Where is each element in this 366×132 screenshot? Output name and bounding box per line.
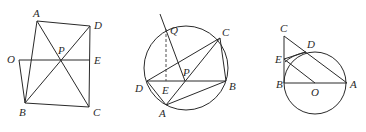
segment-BC (25, 103, 89, 107)
figure-2-circle-chords: Q C P D E B A (134, 14, 236, 119)
label-D: D (306, 38, 315, 50)
segment-CA (284, 36, 347, 83)
label-O: O (311, 86, 319, 98)
label-D: D (93, 19, 102, 31)
label-A: A (349, 78, 357, 90)
label-O: O (7, 53, 15, 65)
segment-AC (37, 21, 89, 107)
figure-1-quadrilateral: A D O P E B C (7, 7, 102, 118)
segment-AD (37, 21, 90, 26)
geometry-diagrams: A D O P E B C Q C P D E B A C D E (0, 0, 366, 132)
segment-EO (284, 59, 315, 83)
label-E: E (161, 84, 169, 96)
label-A: A (32, 7, 40, 19)
label-B: B (229, 80, 236, 92)
segment-CB (220, 38, 226, 81)
segment-AB (166, 81, 226, 105)
label-P: P (57, 44, 65, 56)
segment-OB (19, 60, 25, 103)
label-B: B (19, 106, 26, 118)
label-P: P (182, 66, 190, 78)
label-E: E (93, 54, 101, 66)
label-C: C (280, 22, 288, 34)
label-A: A (158, 107, 166, 119)
figure-3-tangent-circle: C D E B O A (274, 22, 357, 114)
label-Q: Q (170, 24, 178, 36)
segment-AC (166, 38, 220, 105)
segment-DC (89, 26, 90, 107)
label-B: B (276, 78, 283, 90)
label-C: C (222, 26, 230, 38)
label-D: D (134, 82, 143, 94)
label-C: C (93, 106, 101, 118)
label-E: E (274, 53, 282, 65)
